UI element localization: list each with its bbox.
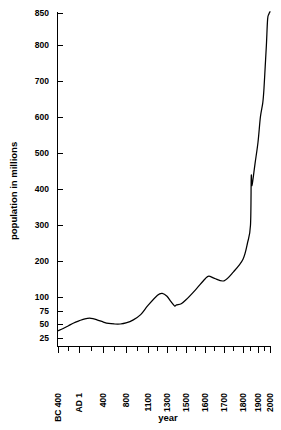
x-axis-title: year xyxy=(158,412,178,423)
x-tick-label-1300: 1300 xyxy=(162,393,172,412)
x-tick-label-400: 400 xyxy=(98,393,108,407)
x-tick-label-1900: 1900 xyxy=(253,393,263,412)
x-tick-label-1100: 1100 xyxy=(143,393,153,412)
x-tick-label-1500: 1500 xyxy=(181,393,191,412)
y-tick-label-500: 500 xyxy=(35,148,49,158)
y-axis-tick-labels: 850 800 700 600 500 400 300 200 100 75 5… xyxy=(35,8,49,343)
y-tick-label-50: 50 xyxy=(40,319,50,329)
x-tick-label-800: 800 xyxy=(121,393,131,407)
x-tick-label-2000: 2000 xyxy=(265,393,275,412)
y-tick-label-300: 300 xyxy=(35,220,49,230)
y-axis-title: population in millions xyxy=(8,142,19,240)
y-tick-label-100: 100 xyxy=(35,292,49,302)
population-chart: 850 800 700 600 500 400 300 200 100 75 5… xyxy=(0,0,281,430)
chart-canvas: 850 800 700 600 500 400 300 200 100 75 5… xyxy=(0,0,281,430)
x-tick-label-ad1: AD 1 xyxy=(74,393,84,413)
x-axis-minor-ticks xyxy=(68,347,264,352)
y-tick-label-700: 700 xyxy=(35,76,49,86)
y-tick-label-850: 850 xyxy=(35,8,49,18)
population-curve xyxy=(58,12,270,331)
x-tick-label-1600: 1600 xyxy=(200,393,210,412)
x-tick-label-bc400: BC 400 xyxy=(53,393,63,422)
y-tick-label-25: 25 xyxy=(40,333,50,343)
x-tick-label-1800: 1800 xyxy=(238,393,248,412)
y-axis-ticks xyxy=(58,13,64,338)
y-tick-label-400: 400 xyxy=(35,184,49,194)
y-tick-label-800: 800 xyxy=(35,40,49,50)
x-axis-major-ticks xyxy=(58,347,270,354)
y-tick-label-600: 600 xyxy=(35,112,49,122)
y-tick-label-200: 200 xyxy=(35,256,49,266)
y-tick-label-75: 75 xyxy=(40,306,50,316)
x-tick-label-1700: 1700 xyxy=(219,393,229,412)
